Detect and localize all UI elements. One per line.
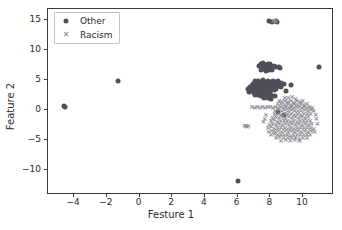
legend-item-racism: × Racism <box>60 30 112 40</box>
y-tick-label: 10 <box>30 44 41 54</box>
x-tick-label: 2 <box>168 197 174 207</box>
x-axis-label: Festure 1 <box>0 209 342 220</box>
data-point-racism <box>312 112 319 119</box>
data-point-racism <box>272 19 279 26</box>
y-tick-mark <box>44 139 47 140</box>
legend-label-other: Other <box>80 16 106 26</box>
scatter-plot-figure: −4−20246810−10−5051015 Festure 1 Feature… <box>0 0 342 230</box>
data-point-racism <box>263 112 270 119</box>
y-tick-mark <box>44 169 47 170</box>
y-axis-label: Feature 2 <box>5 57 16 157</box>
data-point-other <box>62 104 67 109</box>
x-tick-label: 0 <box>136 197 142 207</box>
y-tick-mark <box>44 19 47 20</box>
data-point-racism <box>304 135 311 142</box>
data-point-other <box>115 79 120 84</box>
x-tick-label: −2 <box>99 197 112 207</box>
y-tick-mark <box>44 49 47 50</box>
data-point-other <box>269 96 274 101</box>
data-point-other <box>279 84 284 89</box>
x-tick-label: 10 <box>296 197 307 207</box>
legend-marker-circle-icon <box>60 16 72 26</box>
legend-marker-x-icon: × <box>60 30 72 40</box>
legend-label-racism: Racism <box>80 30 112 40</box>
data-point-other <box>288 82 293 87</box>
data-point-racism <box>314 120 321 127</box>
y-tick-label: −5 <box>28 134 41 144</box>
y-tick-label: 5 <box>35 74 41 84</box>
x-tick-label: 8 <box>266 197 272 207</box>
x-tick-label: 6 <box>234 197 240 207</box>
x-tick-label: 4 <box>201 197 207 207</box>
data-point-other <box>269 68 274 73</box>
data-point-racism <box>245 123 252 130</box>
data-point-other <box>278 65 283 70</box>
data-point-racism <box>296 138 303 145</box>
y-tick-mark <box>44 79 47 80</box>
data-point-other <box>316 64 321 69</box>
data-point-other <box>274 86 279 91</box>
y-tick-label: 15 <box>30 14 41 24</box>
y-tick-mark <box>44 109 47 110</box>
legend: Other × Racism <box>54 12 120 44</box>
x-tick-label: −4 <box>67 197 80 207</box>
data-point-other <box>236 178 241 183</box>
legend-item-other: Other <box>60 16 112 26</box>
y-tick-label: −10 <box>22 164 41 174</box>
y-tick-label: 0 <box>35 104 41 114</box>
